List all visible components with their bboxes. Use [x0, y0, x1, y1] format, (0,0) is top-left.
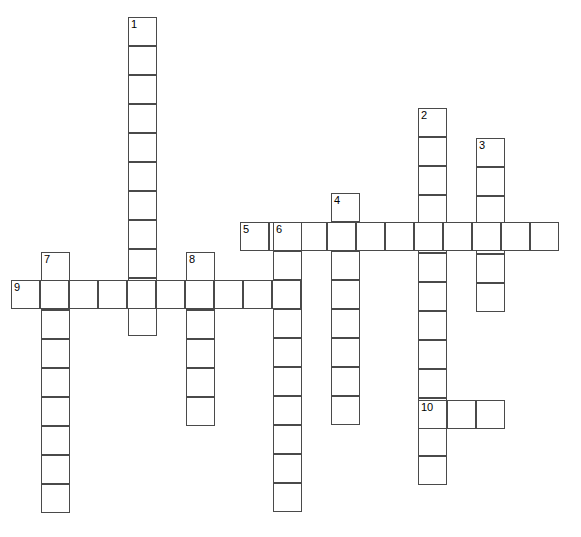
crossword-cell[interactable]	[128, 307, 157, 336]
crossword-cell[interactable]	[69, 280, 98, 309]
crossword-clue-number-1: 1	[131, 18, 137, 30]
crossword-cell[interactable]	[273, 483, 302, 512]
crossword-cell-start-4[interactable]: 4	[331, 193, 360, 222]
crossword-cell[interactable]	[273, 425, 302, 454]
crossword-cell[interactable]	[273, 338, 302, 367]
crossword-cell[interactable]	[128, 191, 157, 220]
crossword-grid[interactable]: 12345678910	[0, 0, 581, 537]
crossword-cell[interactable]	[331, 309, 360, 338]
crossword-cell-start-1[interactable]: 1	[128, 17, 157, 46]
crossword-cell[interactable]	[418, 137, 447, 166]
crossword-clue-number-4: 4	[334, 194, 340, 206]
crossword-cell-start-8[interactable]: 8	[186, 252, 215, 281]
crossword-cell[interactable]	[214, 280, 243, 309]
crossword-cell[interactable]	[414, 222, 443, 251]
crossword-cell[interactable]	[418, 282, 447, 311]
crossword-cell[interactable]	[418, 456, 447, 485]
crossword-cell-start-3[interactable]: 3	[476, 138, 505, 167]
crossword-cell[interactable]	[128, 162, 157, 191]
crossword-cell[interactable]	[273, 251, 302, 280]
crossword-cell[interactable]	[331, 396, 360, 425]
crossword-cell[interactable]	[418, 340, 447, 369]
crossword-cell[interactable]	[98, 280, 127, 309]
crossword-cell[interactable]	[41, 455, 70, 484]
crossword-cell[interactable]	[331, 338, 360, 367]
crossword-cell[interactable]	[472, 222, 501, 251]
crossword-cell[interactable]	[273, 396, 302, 425]
crossword-cell[interactable]	[186, 310, 215, 339]
crossword-cell[interactable]	[530, 222, 559, 251]
crossword-clue-number-10: 10	[421, 401, 433, 413]
crossword-cell[interactable]	[476, 283, 505, 312]
crossword-cell-start-10[interactable]: 10	[418, 400, 447, 429]
crossword-cell[interactable]	[331, 367, 360, 396]
crossword-cell[interactable]	[128, 220, 157, 249]
crossword-cell[interactable]	[385, 222, 414, 251]
crossword-cell[interactable]	[418, 369, 447, 398]
crossword-cell[interactable]	[273, 367, 302, 396]
crossword-cell[interactable]	[476, 400, 505, 429]
crossword-cell[interactable]	[476, 196, 505, 225]
crossword-cell[interactable]	[447, 400, 476, 429]
crossword-cell[interactable]	[476, 167, 505, 196]
crossword-cell[interactable]	[418, 166, 447, 195]
crossword-cell[interactable]	[186, 397, 215, 426]
crossword-clue-number-3: 3	[479, 139, 485, 151]
crossword-cell[interactable]	[272, 280, 301, 309]
crossword-cell[interactable]	[418, 427, 447, 456]
crossword-cell[interactable]	[128, 75, 157, 104]
crossword-cell[interactable]	[156, 280, 185, 309]
crossword-cell[interactable]	[273, 454, 302, 483]
crossword-cell-start-6[interactable]: 6	[273, 222, 302, 251]
crossword-clue-number-6: 6	[276, 223, 282, 235]
crossword-cell[interactable]	[331, 280, 360, 309]
crossword-cell[interactable]	[127, 280, 156, 309]
crossword-cell-start-7[interactable]: 7	[41, 252, 70, 281]
crossword-cell[interactable]	[41, 310, 70, 339]
crossword-cell[interactable]	[418, 253, 447, 282]
crossword-cell[interactable]	[41, 484, 70, 513]
crossword-cell-start-9[interactable]: 9	[11, 280, 40, 309]
crossword-cell[interactable]	[331, 251, 360, 280]
crossword-cell[interactable]	[501, 222, 530, 251]
crossword-cell-start-2[interactable]: 2	[418, 108, 447, 137]
crossword-clue-number-5: 5	[243, 223, 249, 235]
crossword-cell[interactable]	[41, 339, 70, 368]
crossword-cell[interactable]	[443, 222, 472, 251]
crossword-cell[interactable]	[356, 222, 385, 251]
crossword-clue-number-7: 7	[44, 253, 50, 265]
crossword-cell[interactable]	[418, 195, 447, 224]
crossword-cell[interactable]	[41, 397, 70, 426]
crossword-clue-number-2: 2	[421, 109, 427, 121]
crossword-cell[interactable]	[273, 309, 302, 338]
crossword-cell[interactable]	[298, 222, 327, 251]
crossword-cell[interactable]	[128, 46, 157, 75]
crossword-cell[interactable]	[41, 368, 70, 397]
crossword-cell[interactable]	[41, 426, 70, 455]
crossword-clue-number-9: 9	[14, 281, 20, 293]
crossword-cell[interactable]	[185, 280, 214, 309]
crossword-cell[interactable]	[128, 249, 157, 278]
crossword-cell[interactable]	[186, 339, 215, 368]
crossword-clue-number-8: 8	[189, 253, 195, 265]
crossword-cell[interactable]	[128, 133, 157, 162]
crossword-cell[interactable]	[40, 280, 69, 309]
crossword-cell-start-5[interactable]: 5	[240, 222, 269, 251]
crossword-cell[interactable]	[476, 254, 505, 283]
crossword-cell[interactable]	[418, 311, 447, 340]
crossword-cell[interactable]	[186, 368, 215, 397]
crossword-cell[interactable]	[128, 104, 157, 133]
crossword-cell[interactable]	[243, 280, 272, 309]
crossword-cell[interactable]	[327, 222, 356, 251]
